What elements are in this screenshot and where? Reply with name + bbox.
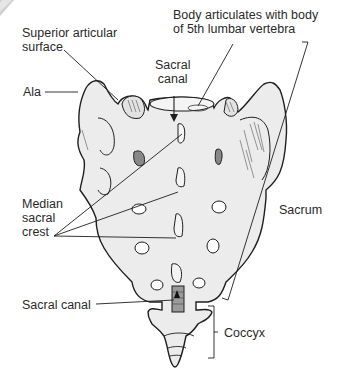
label-line: Median bbox=[22, 197, 63, 211]
label-sacrum: Sacrum bbox=[279, 203, 322, 217]
label-line: Body articulates with body bbox=[173, 8, 318, 22]
label-line: Superior articular bbox=[22, 26, 117, 40]
label-line: crest bbox=[22, 225, 63, 239]
label-line: sacral bbox=[22, 211, 63, 225]
label-sacral-canal-bottom: Sacral canal bbox=[22, 298, 91, 312]
label-superior-articular-surface: Superior articular surface bbox=[22, 26, 117, 54]
label-line: Sacral bbox=[155, 58, 190, 72]
sacrum-diagram: Superior articular surface Body articula… bbox=[0, 0, 338, 379]
label-line: of 5th lumbar vertebra bbox=[173, 22, 318, 36]
sacrum-illustration bbox=[0, 0, 338, 379]
label-body-articulates: Body articulates with body of 5th lumbar… bbox=[173, 8, 318, 36]
label-line: surface bbox=[22, 40, 117, 54]
label-line: canal bbox=[155, 72, 190, 86]
label-sacral-canal-top: Sacral canal bbox=[155, 58, 190, 86]
label-ala: Ala bbox=[23, 85, 41, 99]
label-coccyx: Coccyx bbox=[224, 326, 265, 340]
label-median-sacral-crest: Median sacral crest bbox=[22, 197, 63, 239]
